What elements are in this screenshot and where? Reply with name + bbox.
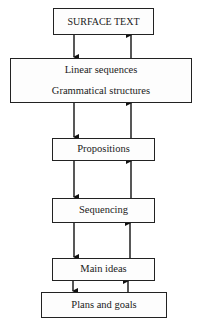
box-label: Plans and goals [71,300,136,311]
box-surface-text: SURFACE TEXT [53,8,154,35]
box-label-line-2: Grammatical structures [52,86,150,97]
box-plans-goals: Plans and goals [41,292,167,318]
box-label: Sequencing [79,205,128,216]
box-label: Propositions [77,144,130,155]
box-sequencing: Sequencing [52,198,155,223]
box-linear-grammatical: Linear sequences Grammatical structures [10,58,192,103]
box-propositions: Propositions [52,138,155,161]
box-label-line-1: Linear sequences [65,65,138,76]
box-main-ideas: Main ideas [52,258,155,281]
box-label: SURFACE TEXT [67,17,139,27]
box-label: Main ideas [80,264,126,275]
